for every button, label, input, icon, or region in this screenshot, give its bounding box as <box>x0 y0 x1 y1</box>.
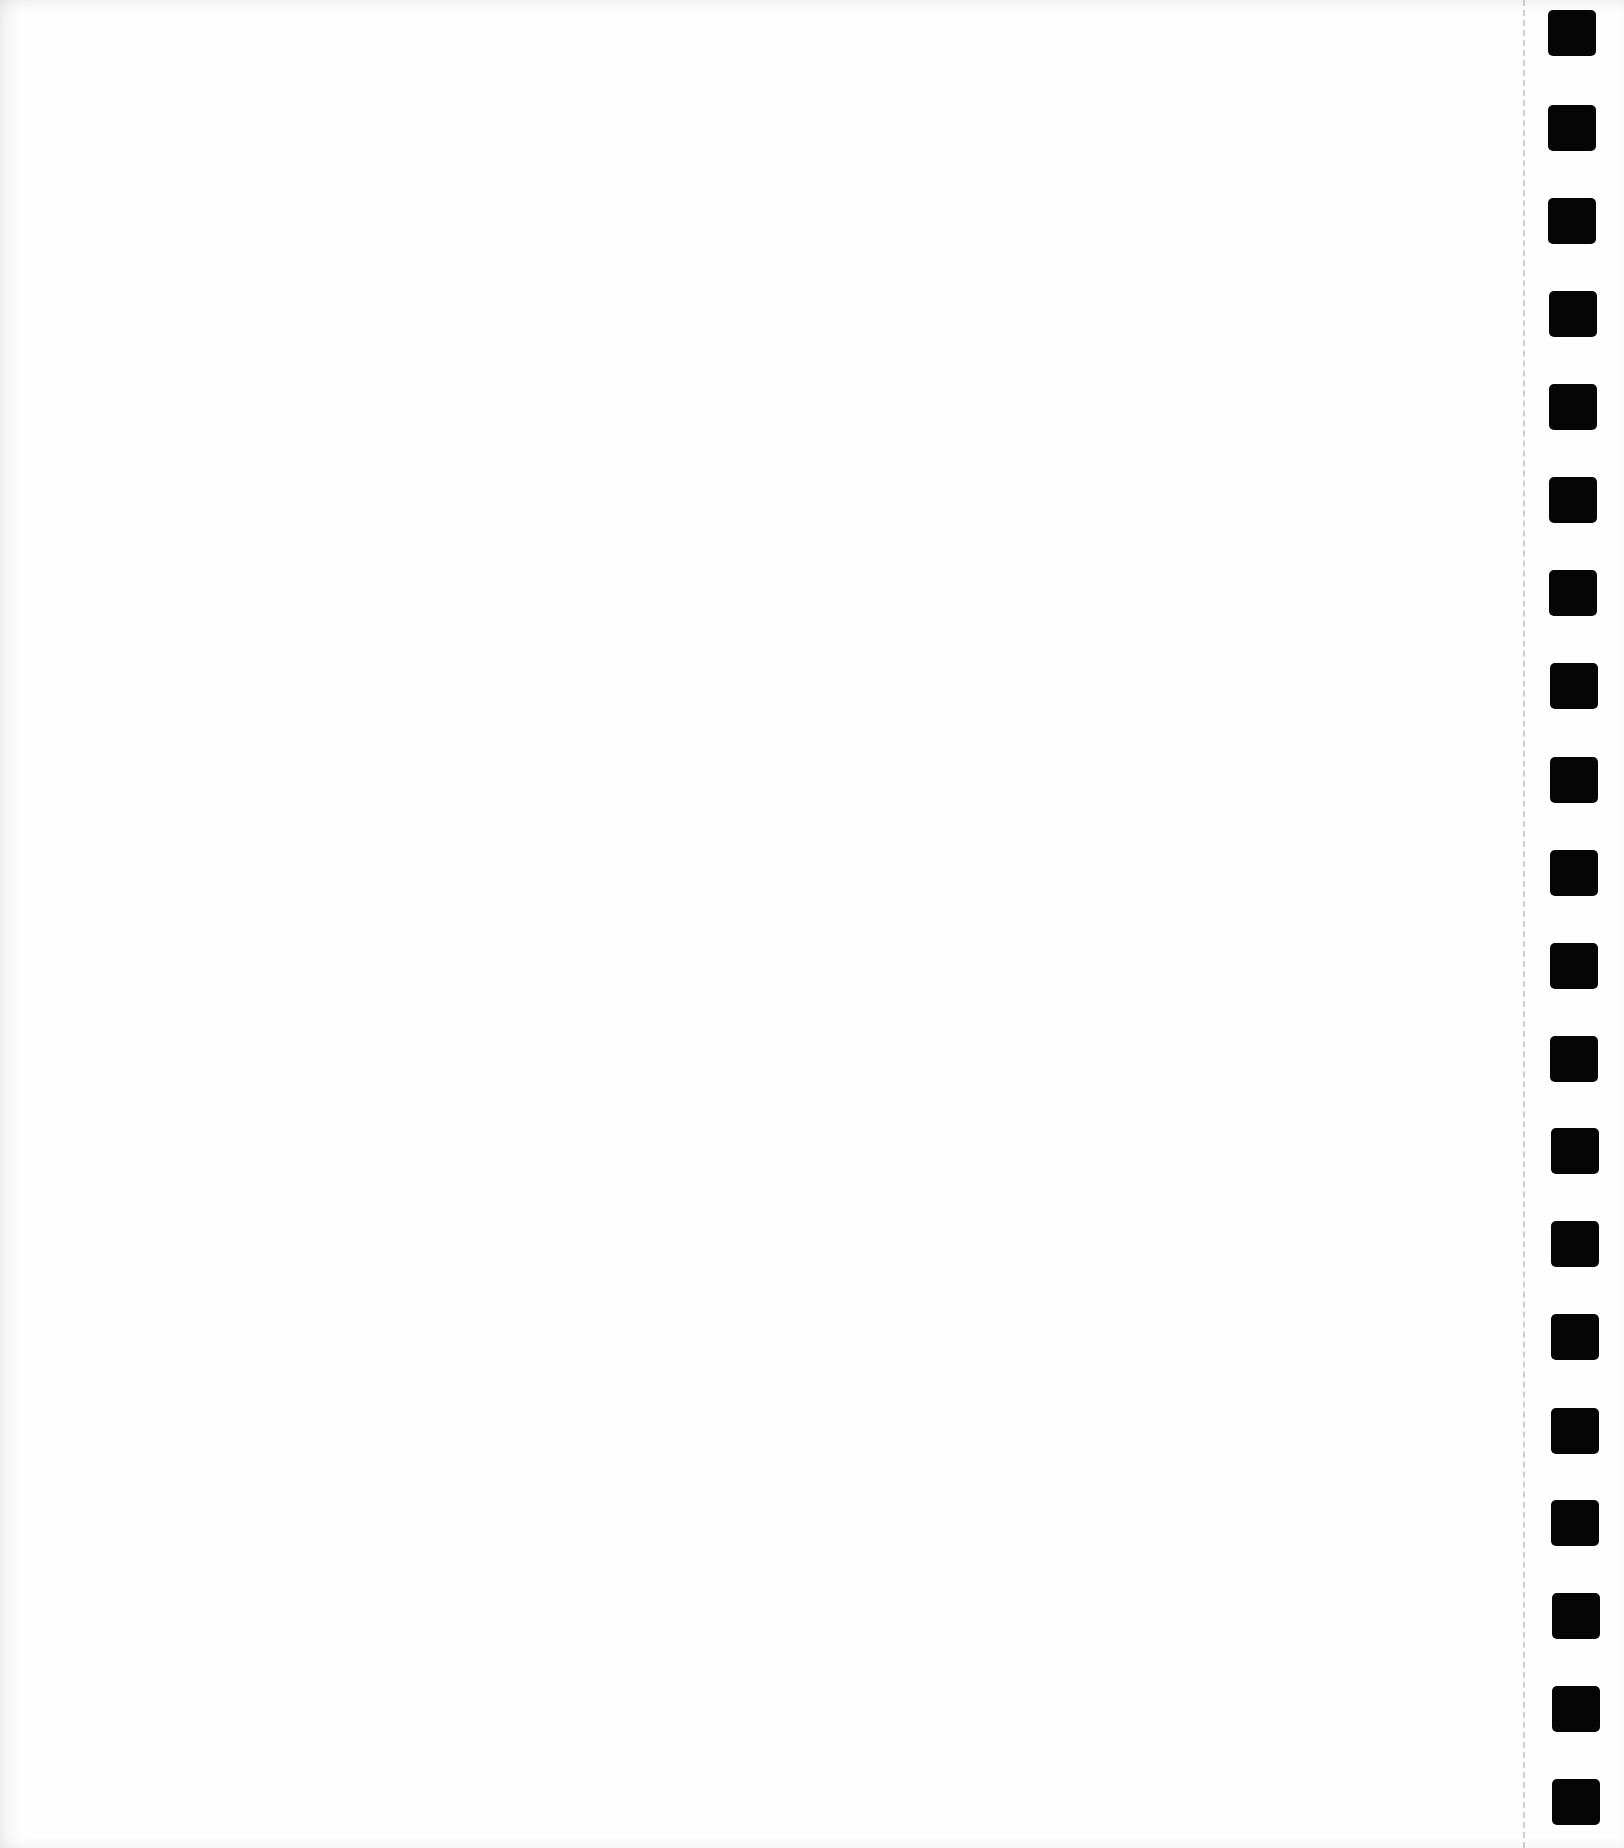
timing-mark <box>1549 384 1597 430</box>
timing-mark <box>1548 198 1596 244</box>
timing-mark <box>1550 1036 1598 1082</box>
scanned-page <box>0 0 1624 1848</box>
timing-mark <box>1550 757 1598 803</box>
dashed-guide-line <box>1523 0 1525 1848</box>
timing-mark <box>1552 1779 1600 1825</box>
timing-mark <box>1548 105 1596 151</box>
timing-mark <box>1550 850 1598 896</box>
timing-mark <box>1550 663 1598 709</box>
timing-mark <box>1552 1593 1600 1639</box>
timing-mark <box>1548 10 1596 56</box>
timing-mark <box>1551 1408 1599 1454</box>
timing-mark-column <box>1546 0 1606 1848</box>
timing-mark <box>1551 1500 1599 1546</box>
timing-mark <box>1552 1686 1600 1732</box>
timing-mark <box>1549 477 1597 523</box>
timing-mark <box>1551 1314 1599 1360</box>
timing-mark <box>1551 1221 1599 1267</box>
timing-mark <box>1551 1128 1599 1174</box>
timing-mark <box>1550 943 1598 989</box>
timing-mark <box>1549 570 1597 616</box>
timing-mark <box>1549 291 1597 337</box>
